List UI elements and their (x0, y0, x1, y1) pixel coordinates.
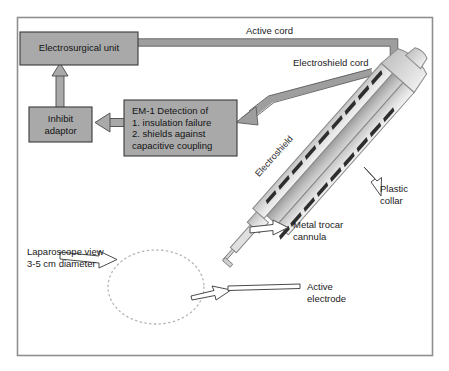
label-metal-trocar-cannula: Metal trocar cannula (293, 219, 343, 242)
em1-line-3: 2. shields against (132, 128, 237, 140)
plastic-collar-line-2: collar (380, 195, 408, 207)
plastic-collar-line-1: Plastic (380, 183, 408, 195)
label-electroshield-cord: Electroshield cord (293, 57, 369, 69)
em1-line-4: capacitive coupling (132, 140, 237, 152)
diagram-canvas: Electrosurgical unit Inhibit adaptor EM-… (0, 0, 449, 371)
diagram-frame (18, 18, 433, 356)
em1-line-1: EM-1 Detection of (132, 105, 237, 117)
metal-trocar-line-1: Metal trocar (293, 219, 343, 231)
label-active-electrode: Active electrode (307, 281, 346, 304)
laparoscope-line-2: 3-5 cm diameter (27, 258, 104, 270)
laparoscope-line-1: Laparoscope view (27, 246, 104, 258)
label-plastic-collar: Plastic collar (380, 183, 408, 206)
inhibit-adaptor-line-2: adaptor (29, 125, 92, 137)
label-active-cord: Active cord (246, 25, 293, 37)
box-label-electrosurgical-unit: Electrosurgical unit (20, 42, 138, 54)
label-laparoscope-view: Laparoscope view 3-5 cm diameter (27, 246, 104, 269)
metal-trocar-line-2: cannula (293, 231, 343, 243)
box-label-em1-detection: EM-1 Detection of 1. insulation failure … (132, 105, 237, 151)
em1-line-2: 1. insulation failure (132, 117, 237, 129)
inhibit-adaptor-line-1: Inhibit (29, 113, 92, 125)
active-electrode-line-2: electrode (307, 293, 346, 305)
box-label-inhibit-adaptor: Inhibit adaptor (29, 113, 92, 136)
active-electrode-line-1: Active (307, 281, 346, 293)
